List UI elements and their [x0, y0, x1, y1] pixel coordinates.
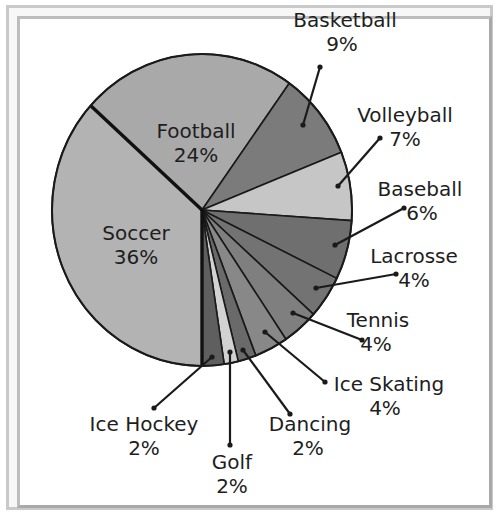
label-golf: Golf	[212, 450, 253, 474]
leader-dot	[322, 379, 327, 384]
leader-dot	[335, 183, 340, 188]
pct-golf: 2%	[216, 474, 248, 498]
label-baseball: Baseball	[378, 177, 463, 201]
pct-ice-hockey: 2%	[128, 436, 160, 460]
label-ice-skating: Ice Skating	[334, 372, 445, 396]
pie-chart: Soccer 36% Football 24% Basketball 9% Vo…	[0, 0, 497, 513]
pct-football: 24%	[174, 143, 218, 167]
pct-dancing: 2%	[292, 436, 324, 460]
leader-dot	[290, 310, 295, 315]
leader-dot	[332, 242, 337, 247]
pct-lacrosse: 4%	[398, 268, 430, 292]
leader-dot	[227, 442, 232, 447]
pct-tennis: 4%	[360, 332, 392, 356]
label-football: Football	[156, 119, 235, 143]
leader-ice-skating	[265, 332, 325, 382]
pct-baseball: 6%	[406, 201, 438, 225]
label-lacrosse: Lacrosse	[370, 244, 458, 268]
pct-basketball: 9%	[326, 32, 358, 56]
label-basketball: Basketball	[293, 8, 396, 32]
label-soccer: Soccer	[102, 221, 170, 245]
leader-dot	[151, 405, 156, 410]
leader-dot	[240, 347, 245, 352]
label-dancing: Dancing	[269, 412, 351, 436]
pct-ice-skating: 4%	[369, 396, 401, 420]
leader-dot	[262, 329, 267, 334]
label-tennis: Tennis	[346, 308, 409, 332]
label-volleyball: Volleyball	[357, 103, 453, 127]
leader-dot	[227, 349, 232, 354]
leader-dot	[377, 135, 382, 140]
leader-dancing	[243, 350, 290, 414]
pct-volleyball: 7%	[389, 127, 421, 151]
label-ice-hockey: Ice Hockey	[90, 412, 199, 436]
leader-dot	[313, 285, 318, 290]
pct-soccer: 36%	[114, 245, 158, 269]
leader-dot	[209, 354, 214, 359]
leader-dot	[300, 122, 305, 127]
leader-dot	[317, 64, 322, 69]
